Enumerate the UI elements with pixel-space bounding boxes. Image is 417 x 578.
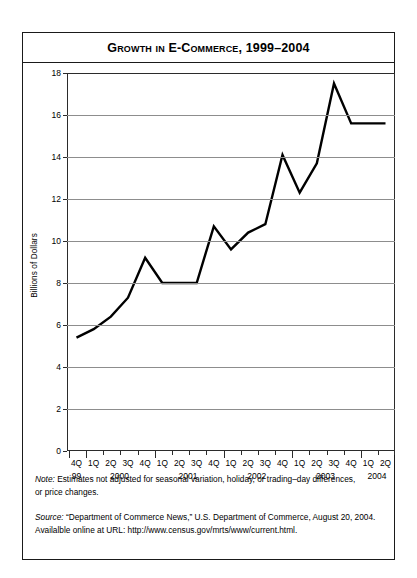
x-quarter-label-15: 3Q bbox=[328, 458, 339, 468]
x-tick-mark-13 bbox=[292, 451, 293, 458]
y-tick-label-6: 6 bbox=[56, 320, 61, 330]
y-tick-label-0: 0 bbox=[56, 446, 61, 456]
x-quarter-label-12: 4Q bbox=[277, 458, 288, 468]
gridline-y-8 bbox=[67, 283, 395, 284]
x-quarter-label-10: 2Q bbox=[243, 458, 254, 468]
x-tick-mark-6 bbox=[172, 451, 173, 455]
x-quarter-label-7: 3Q bbox=[191, 458, 202, 468]
x-quarter-label-0: 4Q bbox=[71, 458, 82, 468]
y-tick-mark-8 bbox=[63, 283, 67, 284]
y-tick-label-8: 8 bbox=[56, 278, 61, 288]
gridline-y-6 bbox=[67, 325, 395, 326]
y-tick-mark-14 bbox=[63, 157, 67, 158]
note-block: Note: Estimates not adjusted for seasona… bbox=[35, 473, 382, 498]
x-tick-mark-1 bbox=[86, 451, 87, 458]
x-tick-mark-15 bbox=[327, 451, 328, 455]
x-quarter-label-17: 1Q bbox=[363, 458, 374, 468]
note-line-2: or price changes. bbox=[35, 486, 382, 499]
ecommerce-series-line bbox=[76, 84, 385, 338]
source-text-1: “Department of Commerce News,” U.S. Depa… bbox=[64, 512, 376, 522]
y-axis-tick-labels: 024681012141618 bbox=[43, 63, 64, 467]
x-tick-mark-10 bbox=[241, 451, 242, 455]
x-quarter-label-16: 4Q bbox=[346, 458, 357, 468]
x-quarter-label-5: 1Q bbox=[157, 458, 168, 468]
gridline-y-2 bbox=[67, 409, 395, 410]
gridline-y-16 bbox=[67, 115, 395, 116]
y-tick-mark-12 bbox=[63, 199, 67, 200]
x-quarter-label-18: 2Q bbox=[380, 458, 391, 468]
x-tick-mark-3 bbox=[120, 451, 121, 455]
y-tick-label-2: 2 bbox=[56, 404, 61, 414]
y-tick-label-12: 12 bbox=[52, 194, 61, 204]
y-axis-title: Billions of Dollars bbox=[25, 63, 43, 467]
y-tick-label-16: 16 bbox=[52, 110, 61, 120]
x-tick-mark-8 bbox=[206, 451, 207, 455]
x-quarter-label-1: 1Q bbox=[88, 458, 99, 468]
source-block: Source: “Department of Commerce News,” U… bbox=[35, 511, 382, 536]
x-tick-mark-14 bbox=[309, 451, 310, 455]
x-tick-mark-0 bbox=[69, 451, 70, 458]
chart-title-bar: Growth in E-Commerce, 1999–2004 bbox=[23, 33, 394, 63]
x-quarter-label-8: 4Q bbox=[208, 458, 219, 468]
gridline-y-12 bbox=[67, 199, 395, 200]
x-quarter-label-13: 1Q bbox=[294, 458, 305, 468]
y-tick-mark-16 bbox=[63, 115, 67, 116]
y-tick-label-18: 18 bbox=[52, 68, 61, 78]
note-lead: Note: bbox=[35, 474, 55, 484]
x-tick-mark-end bbox=[394, 451, 395, 455]
x-tick-mark-18 bbox=[378, 451, 379, 455]
y-tick-label-14: 14 bbox=[52, 152, 61, 162]
x-tick-mark-12 bbox=[275, 451, 276, 455]
y-tick-mark-4 bbox=[63, 367, 67, 368]
chart-figure: Growth in E-Commerce, 1999–2004 Billions… bbox=[22, 32, 395, 560]
series-line-chart bbox=[67, 73, 395, 451]
x-quarter-label-6: 2Q bbox=[174, 458, 185, 468]
gridline-y-10 bbox=[67, 241, 395, 242]
x-tick-mark-5 bbox=[155, 451, 156, 458]
note-text-1: Estimates not adjusted for seasonal vari… bbox=[55, 474, 355, 484]
plot-area-wrapper: Billions of Dollars 024681012141618 4Q1Q… bbox=[23, 63, 394, 467]
x-quarter-label-4: 4Q bbox=[140, 458, 151, 468]
x-tick-mark-2 bbox=[103, 451, 104, 455]
x-tick-mark-16 bbox=[344, 451, 345, 455]
chart-title: Growth in E-Commerce, 1999–2004 bbox=[107, 41, 309, 55]
x-tick-mark-7 bbox=[189, 451, 190, 455]
figure-notes: Note: Estimates not adjusted for seasona… bbox=[23, 473, 394, 549]
y-tick-mark-10 bbox=[63, 241, 67, 242]
y-axis-title-text: Billions of Dollars bbox=[30, 233, 39, 298]
plot-area bbox=[67, 73, 395, 451]
x-tick-mark-17 bbox=[361, 451, 362, 458]
y-tick-label-4: 4 bbox=[56, 362, 61, 372]
x-tick-mark-4 bbox=[138, 451, 139, 455]
y-tick-mark-6 bbox=[63, 325, 67, 326]
source-lead: Source: bbox=[35, 512, 64, 522]
note-line-1: Note: Estimates not adjusted for seasona… bbox=[35, 473, 382, 486]
gridline-y-4 bbox=[67, 367, 395, 368]
y-tick-mark-2 bbox=[63, 409, 67, 410]
x-tick-mark-11 bbox=[258, 451, 259, 455]
x-quarter-label-9: 1Q bbox=[225, 458, 236, 468]
source-line-1: Source: “Department of Commerce News,” U… bbox=[35, 511, 382, 524]
source-line-2: Availalble online at URL: http://www.cen… bbox=[35, 524, 382, 537]
gridline-y-14 bbox=[67, 157, 395, 158]
x-quarter-label-14: 2Q bbox=[311, 458, 322, 468]
x-quarter-label-3: 3Q bbox=[122, 458, 133, 468]
x-tick-mark-9 bbox=[224, 451, 225, 458]
y-tick-mark-18 bbox=[63, 73, 67, 74]
x-quarter-label-11: 3Q bbox=[260, 458, 271, 468]
x-quarter-label-2: 2Q bbox=[105, 458, 116, 468]
y-tick-label-10: 10 bbox=[52, 236, 61, 246]
